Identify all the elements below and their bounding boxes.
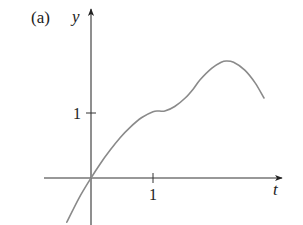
y-tick-label: 1: [73, 105, 81, 122]
x-tick-label: 1: [149, 186, 157, 203]
data-curve: [67, 61, 264, 222]
y-axis-label: y: [70, 7, 80, 26]
panel-label: (a): [31, 8, 50, 27]
figure: (a) y t 1 1: [0, 0, 303, 225]
x-axis-label: t: [273, 180, 279, 199]
